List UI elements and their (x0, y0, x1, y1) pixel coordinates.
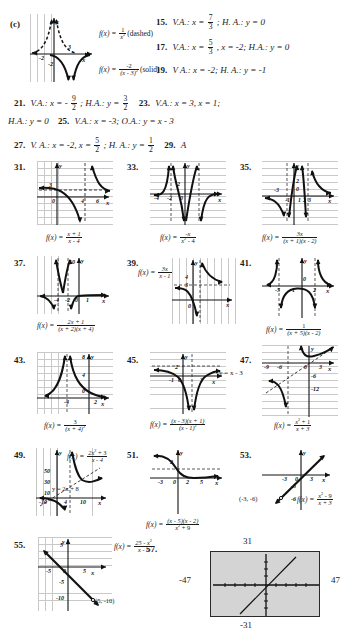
graph-47-axis-label-y: y (311, 345, 314, 352)
answer-19-text: V A.: x = -2; H. A.: y = -1 (173, 65, 267, 75)
graph-45-x-tick-0: 0 (178, 377, 181, 383)
answer-15-frac-den: 3 (208, 23, 214, 31)
formula-part-c-dashed: f(x) = 1x2(dashed) (99, 27, 153, 41)
graph-35-curves (262, 161, 338, 225)
answer-27-pre: V. A.: x = -2, x = (31, 140, 92, 150)
graph-43-x-tick-neg4: -4 (64, 399, 69, 405)
graph-33-x-tick-neg2: -2 (167, 195, 172, 201)
graph-53-x-tick-3: 3 (310, 476, 313, 482)
graph-33-formula: f(x) = -xx2 - 4 (160, 231, 197, 245)
graph-35-x-tick-1: 1 (298, 197, 301, 203)
graph-41-number: 41. (240, 258, 251, 268)
graph-35-x-tick-neg3: -3 (274, 187, 279, 193)
answer-25-number: 25. (58, 116, 69, 126)
graph-55-number: 55. (14, 540, 25, 550)
graph-33-x-tick-0: 0 (180, 195, 183, 201)
graph-31-x-tick-0: 0 (52, 198, 55, 204)
graph-47-oblique-label: y = x - 3 (219, 369, 243, 377)
graph-37-number: 37. (14, 258, 25, 268)
graph-45-x-tick-3: 3 (200, 377, 203, 383)
graph-55-axis-label-y: y (62, 538, 65, 545)
graph-37-x-tick-1: 1 (86, 297, 89, 303)
answer-15: 15. V.A.: x = 73 ; H. A.: y = 0 (156, 14, 265, 30)
graph-55-x-tick-neg5: -5 (46, 568, 51, 574)
graph-39-formula-lhs: f(x) = (138, 268, 155, 277)
graph-31-y-tick-3: 3 (49, 182, 52, 188)
graph-37-axis-label-y: y (81, 257, 84, 264)
part-c-label: (c) (10, 19, 20, 29)
graph-37-denominator: (x + 2)(x + 4) (57, 326, 94, 332)
tick-part-c-x-3: 3 (68, 44, 71, 50)
graph-33-curves (150, 161, 226, 225)
graph-51-x-tick-2: 2 (186, 479, 189, 485)
graph-31-x-tick-4: 4 (81, 198, 84, 204)
answer-21-frac1-den: 2 (71, 104, 77, 112)
graph-41-x-tick-2: 2 (313, 287, 316, 293)
graph-43-axis-label-y: y (91, 353, 94, 360)
answer-15-number: 15. (156, 17, 167, 27)
graph-35-x-tick-3: 3 (308, 197, 311, 203)
graph-53-formula-lhs: f(x) = (297, 495, 314, 504)
graph-55-y-tick-neg5: -5 (59, 579, 64, 585)
graph-37-x-tick-neg4: -4 (54, 297, 59, 303)
graph-31-formula: f(x) = x + 1x - 4 (46, 231, 83, 245)
graph-31-x-tick-6: 6 (96, 198, 99, 204)
graph-35: -3 -1 1 2 3 2 0 x y (262, 161, 338, 225)
graph-35-number: 35. (240, 162, 251, 172)
graph-49-formula: f(x) = 2x2 + 3x - 4 (67, 450, 108, 464)
graph-51-axis-label-y: y (180, 449, 183, 456)
formula-part-c-dashed-den-exp: 2 (123, 32, 125, 37)
graph-49-axis-label-x: x (98, 499, 101, 506)
graph-53-x-tick-neg3: -3 (282, 476, 287, 482)
graph-35-x-tick-neg1: -1 (285, 197, 290, 203)
graph-49-y-tick-30: 30 (44, 479, 50, 485)
answer-17-post: , x = -2; H.A.: y = 0 (217, 42, 290, 52)
graph-57-xmin-label: -47 (179, 575, 191, 585)
graph-41-formula: f(x) = 1(x + 5)(x - 2) (266, 323, 322, 337)
graph-49-axis-label-y: y (59, 449, 62, 456)
answer-29-text: A (181, 140, 187, 150)
graph-31-axis-label-x: x (106, 199, 109, 206)
graph-49-number: 49. (14, 450, 25, 460)
graph-43-formula: f(x) = 3(x + 4)2 (44, 419, 87, 433)
tick-part-c-y-neg2: -2 (48, 61, 53, 67)
graph-49-y-tick-10: 10 (44, 490, 50, 496)
graph-45: 2 -1 0 3 x y (150, 352, 226, 414)
graph-57-ymin-label: -31 (240, 620, 252, 630)
answer-23-number: 23. (139, 98, 150, 108)
graph-57-calculator-window (210, 551, 320, 617)
graph-45-denominator: (x - 1) (179, 424, 195, 431)
graph-55-y-tick-neg10: -10 (56, 595, 64, 601)
graph-47-x-tick-3: 3 (319, 364, 322, 370)
graph-35-denominator: (x + 1)(x - 2) (282, 238, 317, 244)
graph-39-axis-label-y: y (195, 259, 198, 266)
graph-39-y-tick-4: 4 (185, 274, 188, 280)
graph-37-x-tick-neg2: -2 (65, 297, 70, 303)
graph-41-denominator: (x + 5)(x - 2) (286, 330, 321, 336)
graph-49-x-tick-10: 10 (80, 499, 86, 505)
graph-53-denominator: x + 3 (317, 500, 332, 506)
formula-part-c-dashed-lhs: f(x) = (99, 29, 116, 38)
answer-23b-text: H.A.: y = 0 (8, 116, 49, 126)
graph-33-formula-lhs: f(x) = (160, 233, 177, 242)
graph-51-y-tick-2: 2 (170, 459, 173, 465)
graph-57-ymax-label: 31 (243, 536, 252, 546)
graph-45-number: 45. (127, 355, 138, 365)
graph-37-x-tick-0: 0 (75, 297, 78, 303)
axis-label-y-part-c: y (56, 18, 59, 25)
answer-27: 27. V. A.: x = -2, x = 52 ; H. A.: y = 1… (14, 137, 186, 153)
graph-33-axis-label-x: x (218, 196, 221, 203)
graph-35-x-tick-2: 2 (303, 197, 306, 203)
graph-43-formula-lhs: f(x) = (44, 421, 61, 430)
answer-17-number: 17. (156, 42, 167, 52)
graph-57-number: 57. (146, 544, 157, 554)
answer-15-post: ; H. A.: y = 0 (217, 17, 265, 27)
graph-45-denominator-exp: 2 (195, 423, 197, 428)
graph-37-axis-label-x: x (102, 297, 105, 304)
graph-43: 8 4 0 -4 2 x y (37, 352, 113, 414)
graph-55-hole-point: (5, -10) (95, 597, 115, 604)
graph-41-y-tick-0: 0 (303, 276, 306, 282)
graph-57-curves (211, 552, 321, 618)
answer-25-text: V.A.: x = -3; O.A.: y = x - 3 (75, 116, 174, 126)
formula-part-c-solid-den: (x - 3) (120, 69, 136, 76)
